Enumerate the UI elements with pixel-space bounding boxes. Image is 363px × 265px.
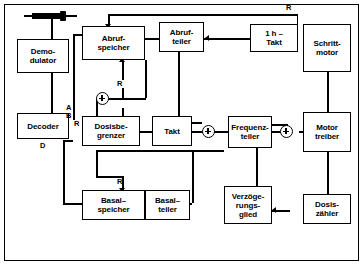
wire-takt1h-abrufteiler <box>204 38 250 40</box>
wire-basalteiler-node <box>190 203 192 205</box>
block-takt[interactable]: Takt <box>152 116 192 146</box>
wire-decoder-a-riser <box>73 34 75 120</box>
wire-demodulator-decoder <box>51 73 53 113</box>
diagram-canvas: Demo- dulator Decoder Abruf- speicher Ab… <box>0 0 363 265</box>
block-takt-1h[interactable]: 1 h – Takt <box>250 24 298 52</box>
wire-reset-abruf-riser <box>122 62 124 80</box>
label-signal-b: B <box>66 112 71 120</box>
block-dosiszaehler[interactable]: Dosis- zähler <box>303 194 351 224</box>
wire-motortreiber-schrittmotor <box>327 72 329 112</box>
wire-basalteiler-riser <box>192 150 194 203</box>
wire-feedback-bus <box>96 150 224 152</box>
wire-reset-dosisbegrenzer <box>122 108 124 116</box>
block-basalteiler[interactable]: Basal– teiler <box>145 190 190 220</box>
block-abrufteiler[interactable]: Abruf- teiler <box>159 22 204 52</box>
wire-reset-bus-top <box>108 14 298 16</box>
summing-junction-3 <box>280 125 293 138</box>
wire-sensor-demodulator <box>51 15 53 39</box>
wire-motortreiber-dosiszaehler <box>327 152 329 194</box>
wire-abrufteiler-down <box>178 52 180 122</box>
label-reset-top: R <box>286 4 291 12</box>
block-decoder[interactable]: Decoder <box>17 113 69 139</box>
wire-sum1-out <box>122 98 146 100</box>
arrow-takt1h-abrufteiler <box>205 35 209 41</box>
wire-abrufspeicher-abrufteiler <box>145 38 159 40</box>
wire-sum-frequenzteiler <box>214 131 228 133</box>
block-motortreiber[interactable]: Motor treiber <box>303 112 351 152</box>
wire-sum1-to-abrufspeicher <box>145 60 147 98</box>
arrow-dosiszaehler-verzoegerung <box>272 207 276 213</box>
summing-junction-1 <box>96 92 109 105</box>
wire-reset-basal-riser <box>96 150 98 176</box>
block-basalspeicher[interactable]: Basal– speicher <box>82 190 145 220</box>
wire-decoder-d <box>63 140 73 142</box>
label-signal-d: D <box>40 142 45 150</box>
wire-reset-abruf-lower <box>122 88 124 98</box>
wire-dosisbegrenzer-takt <box>140 131 152 133</box>
block-schrittmotor[interactable]: Schritt- motor <box>303 24 351 72</box>
block-verzoegerungsglied[interactable]: Verzöge- rungs- glied <box>224 186 272 224</box>
wire-decoder-d-drop <box>63 140 65 203</box>
block-frequenzteiler[interactable]: Frequenz- teiler <box>228 116 272 148</box>
label-reset-abruf: R <box>117 80 122 88</box>
block-demodulator[interactable]: Demo- dulator <box>17 39 69 73</box>
label-reset-basal: R <box>117 178 122 186</box>
label-reset-dosis: R <box>74 120 79 128</box>
block-abrufspeicher[interactable]: Abruf- speicher <box>82 26 145 60</box>
block-dosisbegrenzer[interactable]: Dosisbe- grenzer <box>82 116 140 146</box>
summing-junction-2 <box>202 125 215 138</box>
